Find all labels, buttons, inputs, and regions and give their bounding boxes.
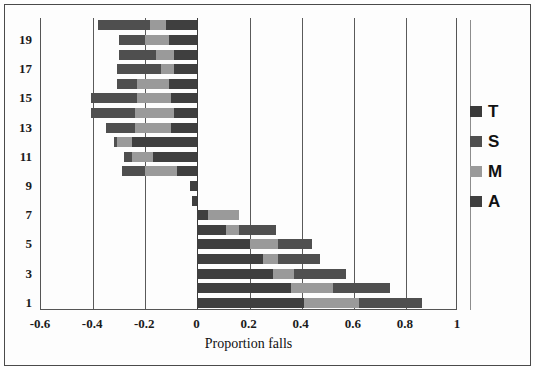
bar-segment-a: [197, 254, 262, 264]
bar-row: [41, 137, 456, 147]
bar-segment-m: [132, 152, 153, 162]
bar-row: [41, 254, 456, 264]
bar-segment-a: [177, 166, 198, 176]
legend-item-m[interactable]: M: [470, 156, 526, 186]
bar-row: [41, 181, 456, 191]
legend-label: A: [488, 193, 500, 210]
bar-segment-a: [192, 196, 197, 206]
y-tick-label: 19: [6, 32, 32, 48]
x-tick-label: 0: [171, 316, 221, 332]
x-tick-label: 0.8: [380, 316, 430, 332]
bar-segment-m: [156, 50, 174, 60]
bar-segment-s: [294, 269, 346, 279]
bar-segment-a: [169, 35, 198, 45]
y-tick-label: 15: [6, 90, 32, 106]
legend-label: M: [488, 163, 502, 180]
bar-segment-s: [278, 239, 312, 249]
bar-row: [41, 20, 456, 30]
bar-segment-m: [208, 210, 239, 220]
y-tick-label: 17: [6, 61, 32, 77]
legend-swatch-icon: [470, 136, 482, 147]
bar-segment-a: [190, 181, 198, 191]
bar-row: [41, 35, 456, 45]
bar-segment-a: [197, 283, 291, 293]
bar-row: [41, 64, 456, 74]
bar-segment-a: [197, 225, 226, 235]
x-tick-label: -0.2: [119, 316, 169, 332]
bar-segment-s: [333, 283, 390, 293]
y-tick-label: 1: [6, 295, 32, 311]
legend-swatch-icon: [470, 166, 482, 177]
x-tick-label: -0.6: [15, 316, 65, 332]
bar-segment-a: [169, 79, 198, 89]
bar-segment-m: [263, 254, 279, 264]
bar-row: [41, 239, 456, 249]
legend-swatch-icon: [470, 106, 482, 117]
bar-row: [41, 108, 456, 118]
bar-segment-a: [197, 239, 249, 249]
bar-segment-s: [278, 254, 320, 264]
bar-segment-a: [197, 210, 207, 220]
y-tick-label: 7: [6, 207, 32, 223]
bar-segment-s: [106, 123, 135, 133]
bar-segment-a: [197, 269, 273, 279]
legend-label: T: [488, 103, 498, 120]
bar-row: [41, 298, 456, 308]
legend-item-s[interactable]: S: [470, 126, 526, 156]
bar-segment-a: [171, 123, 197, 133]
bar-segment-s: [239, 225, 275, 235]
bar-segment-m: [145, 166, 176, 176]
bar-segment-s: [359, 298, 422, 308]
bar-segment-s: [119, 35, 145, 45]
legend-item-t[interactable]: T: [470, 96, 526, 126]
x-axis-title: Proportion falls: [40, 336, 457, 352]
bar-row: [41, 79, 456, 89]
bar-segment-s: [124, 152, 132, 162]
y-tick-label: 11: [6, 149, 32, 165]
bar-segment-m: [117, 137, 133, 147]
figure-container: 135791113151719 -0.6-0.4-0.200.20.40.60.…: [0, 0, 535, 370]
x-tick-label: -0.4: [67, 316, 117, 332]
x-tick-label: 0.4: [276, 316, 326, 332]
bar-segment-a: [197, 298, 304, 308]
bar-segment-s: [117, 64, 161, 74]
bar-segment-m: [137, 79, 168, 89]
chart-legend: TSMA: [470, 96, 526, 216]
bar-row: [41, 196, 456, 206]
bar-segment-m: [150, 20, 166, 30]
legend-item-a[interactable]: A: [470, 186, 526, 216]
bar-segment-m: [145, 35, 168, 45]
bar-segment-m: [161, 64, 174, 74]
legend-label: S: [488, 133, 499, 150]
bar-segment-a: [166, 20, 197, 30]
y-tick-label: 9: [6, 178, 32, 194]
bar-segment-a: [174, 108, 197, 118]
bar-segment-s: [117, 79, 138, 89]
bar-row: [41, 166, 456, 176]
plot-area: [40, 18, 457, 310]
bar-segment-s: [98, 20, 150, 30]
bar-segment-m: [137, 93, 171, 103]
bar-segment-s: [122, 166, 145, 176]
bar-segment-s: [91, 108, 135, 118]
bar-row: [41, 93, 456, 103]
bar-segment-m: [304, 298, 359, 308]
bar-row: [41, 269, 456, 279]
bar-segment-s: [91, 93, 138, 103]
bar-segment-s: [114, 137, 117, 147]
bar-segment-a: [171, 93, 197, 103]
bar-segment-a: [153, 152, 197, 162]
x-tick-label: 0.2: [224, 316, 274, 332]
bar-row: [41, 50, 456, 60]
x-tick-label: 0.6: [328, 316, 378, 332]
bar-row: [41, 123, 456, 133]
bar-segment-m: [273, 269, 294, 279]
x-tick-label: 1: [432, 316, 482, 332]
bars-group: [41, 18, 456, 309]
bar-segment-m: [135, 108, 174, 118]
y-tick-label: 13: [6, 120, 32, 136]
bar-segment-m: [291, 283, 333, 293]
bar-segment-a: [132, 137, 197, 147]
bar-segment-m: [135, 123, 171, 133]
bar-segment-a: [174, 64, 197, 74]
